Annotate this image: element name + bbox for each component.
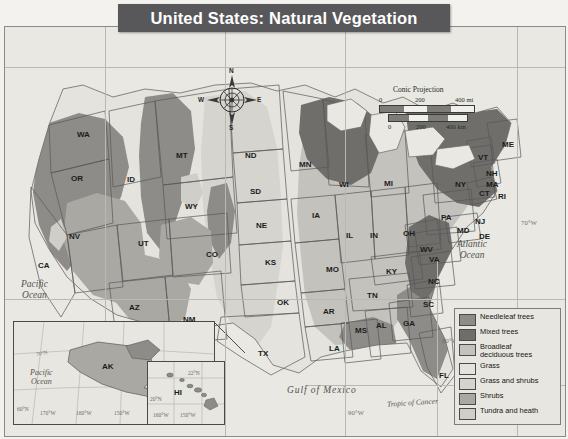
state-label-nh: NH	[486, 169, 498, 178]
miles-tick-200: 200	[415, 96, 425, 103]
state-label-ct: CT	[479, 189, 490, 198]
state-label-ia: IA	[312, 211, 320, 220]
alaska-tick-60n: 60°N	[17, 406, 29, 412]
compass-rose: N S E W	[201, 69, 263, 131]
legend-label-3: Grass	[480, 362, 500, 371]
state-label-vt: VT	[478, 153, 488, 162]
state-label-ut: UT	[138, 239, 149, 248]
state-label-ca: CA	[38, 261, 50, 270]
km-scale-bar	[388, 114, 468, 122]
state-label-ok: OK	[277, 298, 289, 307]
gulf-of-mexico-label: Gulf of Mexico	[287, 385, 357, 396]
state-label-mn: MN	[299, 160, 311, 169]
compass-east-label: E	[257, 96, 261, 103]
legend-swatch-6	[459, 408, 476, 420]
compass-west-label: W	[198, 96, 204, 103]
legend-label-4: Grass and shrubs	[480, 377, 538, 386]
state-label-oh: OH	[403, 229, 415, 238]
legend-item-2[interactable]: Broadleafdeciduous trees	[459, 343, 557, 360]
map-legend: Needleleaf treesMixed treesBroadleafdeci…	[454, 308, 561, 425]
state-label-wy: WY	[185, 202, 198, 211]
state-label-ri: RI	[498, 192, 506, 201]
graticule-line	[5, 67, 565, 68]
state-label-me: ME	[502, 140, 514, 149]
state-label-ky: KY	[386, 267, 397, 276]
legend-item-6[interactable]: Tundra and heath	[459, 407, 557, 420]
state-label-sd: SD	[250, 187, 261, 196]
legend-swatch-1	[459, 329, 476, 341]
alaska-tick-150w: 150°W	[114, 410, 130, 416]
state-label-sc: SC	[423, 300, 434, 309]
graticule-label-0: 70°W	[521, 219, 537, 226]
state-label-md: MD	[457, 226, 469, 235]
state-label-co: CO	[206, 250, 218, 259]
legend-swatch-4	[459, 378, 476, 390]
state-label-ar: AR	[323, 307, 335, 316]
state-label-il: IL	[346, 231, 353, 240]
state-label-ga: GA	[403, 319, 415, 328]
state-label-ks: KS	[265, 258, 276, 267]
map-title-banner: United States: Natural Vegetation	[118, 4, 450, 32]
state-label-nd: ND	[245, 151, 257, 160]
legend-item-4[interactable]: Grass and shrubs	[459, 377, 557, 390]
km-tick-200: 200	[416, 123, 426, 130]
state-label-mo: MO	[326, 265, 339, 274]
alaska-pacific-ocean-label: PacificOcean	[30, 368, 53, 386]
legend-swatch-2	[459, 344, 476, 356]
alaska-tick-160w: 160°W	[76, 410, 92, 416]
state-label-nc: NC	[428, 277, 440, 286]
state-label-ne: NE	[256, 221, 267, 230]
state-label-tx: TX	[258, 349, 268, 358]
legend-rows: Needleleaf treesMixed treesBroadleafdeci…	[459, 313, 557, 420]
page-title: United States: Natural Vegetation	[151, 9, 418, 28]
state-label-wi: WI	[339, 180, 349, 189]
legend-item-5[interactable]: Shrubs	[459, 392, 557, 405]
state-label-mi: MI	[384, 179, 393, 188]
compass-south-label: S	[229, 124, 233, 131]
state-label-ms: MS	[355, 326, 367, 335]
hawaii-tick-20n: 20°N	[150, 396, 162, 402]
graticule-line	[105, 27, 106, 327]
state-label-ny: NY	[455, 180, 466, 189]
state-label-al: AL	[376, 321, 387, 330]
legend-item-1[interactable]: Mixed trees	[459, 328, 557, 341]
km-tick-0: 0	[388, 123, 391, 130]
alaska-tick-170w: 170°W	[40, 410, 56, 416]
miles-tick-0: 0	[379, 96, 382, 103]
state-label-ma: MA	[486, 180, 498, 189]
legend-label-2: Broadleafdeciduous trees	[480, 343, 532, 360]
legend-item-3[interactable]: Grass	[459, 362, 557, 375]
state-label-nj: NJ	[475, 217, 485, 226]
state-label-wa: WA	[77, 130, 90, 139]
alaska-label: AK	[102, 362, 114, 371]
atlantic-ocean-label: AtlanticOcean	[457, 239, 487, 261]
state-label-id: ID	[127, 175, 135, 184]
hawaii-inset: HI 160°W 150°W 20°N 22°N	[147, 361, 225, 425]
state-label-tn: TN	[367, 291, 378, 300]
km-tick-row: 0 200 400 km	[388, 123, 495, 132]
vegetation-map-page: WAORIDMTWYNVUTCAAZNMCONDSDNEKSOKTXMNIAMO…	[0, 0, 568, 439]
hawaii-tick-160w: 160°W	[153, 412, 169, 418]
state-label-pa: PA	[441, 213, 452, 222]
legend-swatch-3	[459, 363, 476, 375]
state-label-wv: WV	[420, 245, 433, 254]
state-label-va: VA	[429, 255, 440, 264]
legend-swatch-5	[459, 393, 476, 405]
state-label-or: OR	[71, 174, 83, 183]
state-label-az: AZ	[129, 303, 140, 312]
hawaii-tick-150w: 150°W	[180, 412, 196, 418]
legend-item-0[interactable]: Needleleaf trees	[459, 313, 557, 326]
state-label-nm: NM	[183, 315, 195, 324]
state-label-nv: NV	[69, 232, 80, 241]
pacific-ocean-label: PacificOcean	[21, 279, 48, 301]
graticule-label-4: 90°W	[348, 409, 364, 416]
projection-label: Conic Projection	[379, 85, 495, 94]
scale-bar-block: Conic Projection 0 200 400 mi 0 200 400 …	[379, 85, 495, 132]
legend-swatch-0	[459, 314, 476, 326]
miles-tick-row: 0 200 400 mi	[379, 96, 495, 105]
state-label-la: LA	[329, 344, 340, 353]
hawaii-label: HI	[174, 388, 182, 397]
state-label-fl: FL	[439, 371, 449, 380]
miles-tick-400: 400 mi	[455, 96, 473, 103]
legend-label-0: Needleleaf trees	[480, 313, 534, 322]
